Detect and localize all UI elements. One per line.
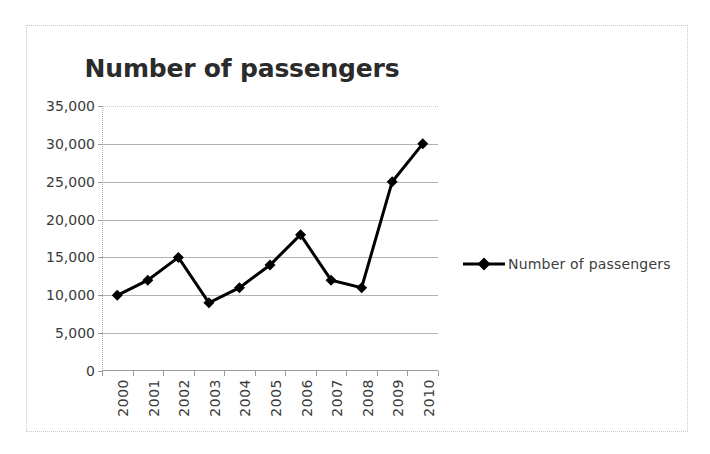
- data-point-2000: [112, 290, 123, 301]
- x-tick-label-2001: 2001: [146, 379, 162, 417]
- x-tick-label-2010: 2010: [421, 379, 437, 417]
- x-tick-mark-3: [194, 371, 195, 376]
- y-tick-label-30000: 30,000: [46, 136, 95, 152]
- x-tick-label-2008: 2008: [360, 379, 376, 417]
- chart-legend: Number of passengers: [462, 256, 671, 272]
- plot-area: 05,00010,00015,00020,00025,00030,00035,0…: [102, 106, 438, 371]
- y-tick-label-35000: 35,000: [46, 98, 95, 114]
- x-tick-mark-11: [438, 371, 439, 376]
- x-tick-mark-6: [285, 371, 286, 376]
- y-tick-label-5000: 5,000: [55, 325, 95, 341]
- x-tick-label-2004: 2004: [237, 379, 253, 417]
- y-tick-label-0: 0: [86, 363, 95, 379]
- y-tick-label-15000: 15,000: [46, 249, 95, 265]
- x-tick-label-2000: 2000: [115, 379, 131, 417]
- series-polyline: [117, 144, 422, 303]
- x-tick-mark-4: [224, 371, 225, 376]
- y-tick-label-25000: 25,000: [46, 174, 95, 190]
- chart-frame: Number of passengers 05,00010,00015,0002…: [26, 25, 688, 432]
- x-tick-mark-7: [316, 371, 317, 376]
- x-tick-mark-2: [163, 371, 164, 376]
- legend-marker-icon: [462, 256, 506, 272]
- y-tick-label-20000: 20,000: [46, 212, 95, 228]
- chart-title: Number of passengers: [27, 54, 457, 83]
- x-tick-label-2003: 2003: [207, 379, 223, 417]
- x-tick-label-2007: 2007: [329, 379, 345, 417]
- data-point-2008: [356, 282, 367, 293]
- x-tick-mark-1: [133, 371, 134, 376]
- x-tick-mark-5: [255, 371, 256, 376]
- y-tick-label-10000: 10,000: [46, 287, 95, 303]
- x-tick-label-2009: 2009: [390, 379, 406, 417]
- x-tick-mark-10: [407, 371, 408, 376]
- x-tick-mark-9: [377, 371, 378, 376]
- series-line-number-of-passengers: [102, 106, 438, 371]
- x-tick-label-2005: 2005: [268, 379, 284, 417]
- x-tick-mark-8: [346, 371, 347, 376]
- x-tick-label-2002: 2002: [176, 379, 192, 417]
- legend-label-number-of-passengers: Number of passengers: [508, 256, 671, 272]
- x-tick-mark-0: [102, 371, 103, 376]
- x-tick-label-2006: 2006: [299, 379, 315, 417]
